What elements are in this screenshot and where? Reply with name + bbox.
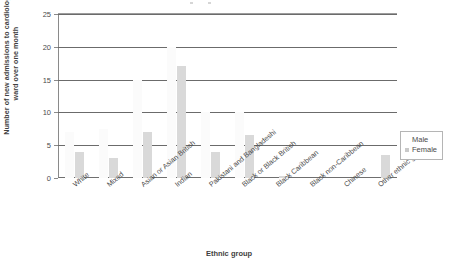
y-tick-label: 20 bbox=[43, 42, 51, 51]
bar-male bbox=[65, 132, 74, 178]
bar-group bbox=[194, 14, 228, 178]
y-tick-label: 0 bbox=[47, 174, 51, 183]
y-tick-mark bbox=[54, 178, 58, 179]
legend-swatch-female-icon bbox=[405, 148, 409, 152]
bar-male bbox=[99, 129, 108, 178]
y-tick-label: 10 bbox=[43, 108, 51, 117]
legend-label-female: Female bbox=[412, 145, 437, 155]
chart-legend: Male Female bbox=[400, 131, 443, 160]
bar-female bbox=[177, 66, 186, 178]
bar-male bbox=[201, 112, 210, 178]
legend-item-female: Female bbox=[405, 145, 437, 155]
bar-group bbox=[126, 14, 160, 178]
bar-chart: Number of new admissions to cardiology w… bbox=[0, 0, 458, 266]
top-artifact-mark-2 bbox=[208, 2, 211, 4]
bar-group bbox=[92, 14, 126, 178]
bar-male bbox=[133, 80, 142, 178]
y-tick-label: 15 bbox=[43, 75, 51, 84]
legend-item-male: Male bbox=[405, 135, 437, 145]
top-artifact-mark-1 bbox=[190, 2, 193, 4]
bar-group bbox=[363, 14, 397, 178]
y-tick-label: 25 bbox=[43, 10, 51, 19]
y-axis-title: Number of new admissions to cardiology w… bbox=[3, 0, 20, 139]
legend-label-male: Male bbox=[412, 135, 428, 145]
y-tick-label: 5 bbox=[47, 141, 51, 150]
x-axis-title: Ethnic group bbox=[0, 249, 458, 258]
bar-group bbox=[58, 14, 92, 178]
